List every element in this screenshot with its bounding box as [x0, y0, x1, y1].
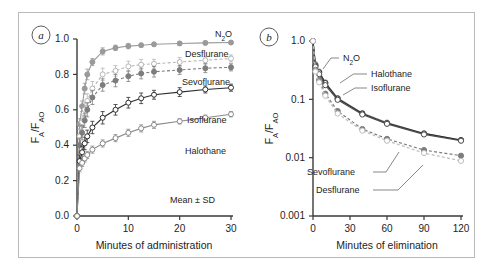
data-point	[421, 132, 426, 137]
data-point	[203, 66, 208, 71]
data-point	[85, 72, 90, 77]
series-label-halothane: Halothane	[371, 69, 412, 79]
data-point	[90, 95, 95, 100]
data-point	[177, 41, 182, 46]
data-point	[313, 69, 318, 74]
data-point	[90, 60, 95, 65]
y-tick-label: 0.4	[55, 139, 69, 150]
data-point	[323, 93, 328, 98]
y-tick-label: 0.1	[291, 94, 305, 105]
data-point	[113, 45, 118, 50]
y-tick-label: 0.001	[280, 210, 305, 221]
x-tick-label: 120	[453, 223, 470, 234]
series-label-n2o: N2O	[215, 29, 232, 42]
data-point	[85, 134, 90, 139]
callout-leader	[340, 74, 367, 83]
data-point	[100, 72, 105, 77]
data-point	[80, 130, 85, 135]
data-point	[75, 214, 80, 219]
y-tick-label: 0.8	[55, 69, 69, 80]
x-axis-title: Minutes of administration	[96, 239, 213, 251]
series-desflurane	[310, 38, 463, 163]
data-point	[85, 107, 90, 112]
series-label-desflurane: Desflurane	[316, 185, 360, 195]
panel-b: b0.0010.010.11.00306090120Minutes of eli…	[247, 13, 476, 259]
data-point	[203, 40, 208, 45]
y-axis-title: FA/FAO	[29, 112, 46, 144]
data-point	[85, 152, 90, 157]
data-point	[458, 138, 463, 143]
data-point	[126, 100, 131, 105]
x-tick-label: 20	[174, 223, 186, 234]
data-point	[360, 128, 365, 133]
y-tick-label: 0.01	[286, 152, 306, 163]
data-point	[384, 138, 389, 143]
data-point	[90, 125, 95, 130]
data-point	[458, 153, 463, 158]
data-point	[100, 115, 105, 120]
data-point	[335, 111, 340, 116]
x-axis-title: Minutes of elimination	[336, 239, 438, 251]
data-point	[100, 49, 105, 54]
series-label-sevoflurane: Sevoflurane	[307, 167, 355, 177]
data-point	[126, 44, 131, 49]
series-label-desflurane: Desflurane	[185, 49, 229, 59]
data-point	[177, 119, 182, 124]
data-point	[77, 166, 82, 171]
panel-a: a0.00.20.40.60.81.00102030Minutes of adm…	[19, 13, 247, 259]
y-tick-label: 0.2	[55, 175, 69, 186]
data-point	[421, 150, 426, 155]
data-point	[113, 78, 118, 83]
data-point	[126, 130, 131, 135]
y-axis-title: FA/FAO	[263, 113, 280, 145]
data-point	[177, 60, 182, 65]
data-point	[229, 56, 234, 61]
data-point	[90, 147, 95, 152]
x-tick-label: 30	[344, 223, 356, 234]
data-point	[113, 136, 118, 141]
data-point	[82, 141, 87, 146]
data-point	[229, 65, 234, 70]
data-point	[360, 112, 365, 117]
data-point	[126, 74, 131, 79]
x-tick-label: 30	[225, 223, 237, 234]
data-point	[139, 43, 144, 48]
series-label-n2o: N2O	[343, 53, 360, 66]
x-tick-label: 90	[418, 223, 430, 234]
data-point	[203, 87, 208, 92]
data-point	[139, 126, 144, 131]
data-point	[113, 68, 118, 73]
data-point	[152, 69, 157, 74]
callout-leader	[373, 165, 423, 190]
panel-tag-a: a	[38, 29, 44, 41]
data-point	[317, 80, 322, 85]
y-tick-label: 0.0	[55, 210, 69, 221]
data-point	[229, 112, 234, 117]
data-point	[139, 96, 144, 101]
figure-container: a0.00.20.40.60.81.00102030Minutes of adm…	[0, 0, 491, 273]
data-point	[100, 141, 105, 146]
panel-a-svg: a0.00.20.40.60.81.00102030Minutes of adm…	[19, 13, 247, 259]
y-tick-label: 1.0	[291, 35, 305, 46]
data-point	[323, 83, 328, 88]
data-point	[152, 61, 157, 66]
data-point	[139, 71, 144, 76]
data-point	[139, 62, 144, 67]
data-point	[82, 118, 87, 123]
data-point	[82, 86, 87, 91]
callout-leader	[343, 88, 367, 95]
data-point	[384, 121, 389, 126]
figure-frame: a0.00.20.40.60.81.00102030Minutes of adm…	[18, 12, 475, 258]
data-point	[458, 158, 463, 163]
data-point	[100, 83, 105, 88]
series-label-isoflurane: Isoflurane	[187, 115, 227, 125]
y-tick-label: 1.0	[55, 33, 69, 44]
data-point	[152, 92, 157, 97]
x-tick-label: 10	[123, 223, 135, 234]
x-tick-label: 0	[310, 223, 316, 234]
data-point	[126, 64, 131, 69]
series-label-halothane: Halothane	[185, 146, 226, 156]
data-point	[310, 38, 315, 43]
data-point	[152, 42, 157, 47]
data-point	[335, 97, 340, 102]
